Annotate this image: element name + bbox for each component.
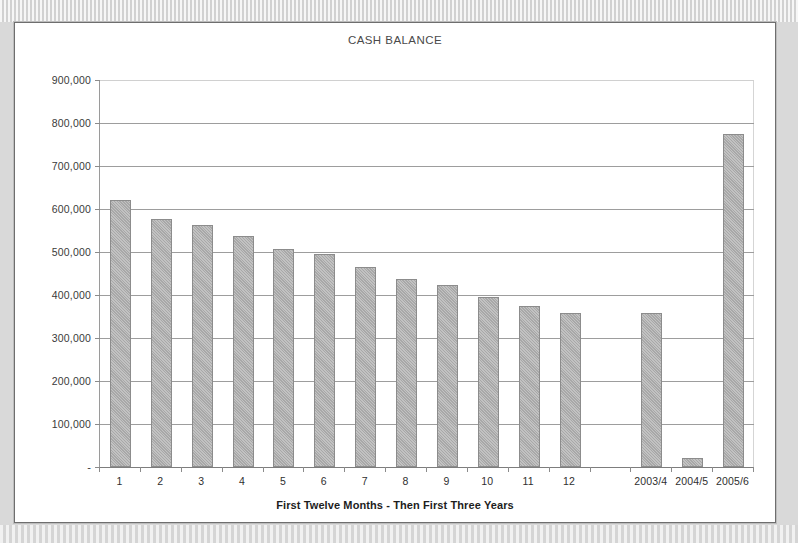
chart-title: CASH BALANCE [15,34,775,46]
gridline [100,123,754,124]
x-axis-tick [99,467,100,472]
bar [314,254,335,467]
x-axis-tick [671,467,672,472]
x-axis-tick [426,467,427,472]
y-axis-tick [95,424,100,425]
y-axis-label: 200,000 [52,375,91,387]
scan-artifact-top [0,0,798,22]
bar [478,297,499,467]
chart-card: CASH BALANCE 900,000800,000700,000600,00… [14,22,776,523]
x-axis-label: 9 [443,475,449,487]
x-axis-label: 1 [116,475,122,487]
y-axis-label: 800,000 [52,117,91,129]
x-axis-label: 4 [239,475,245,487]
x-axis-label: 7 [362,475,368,487]
x-axis-label: 5 [280,475,286,487]
x-axis-tick [303,467,304,472]
bar [519,306,540,467]
bar [192,225,213,467]
x-axis-label: 8 [403,475,409,487]
x-axis-label: 2 [157,475,163,487]
x-axis-tick [222,467,223,472]
x-axis-tick [140,467,141,472]
bar [560,313,581,467]
x-axis-tick [263,467,264,472]
bar [151,219,172,467]
x-axis-tick [181,467,182,472]
y-axis-label: - [87,461,91,473]
x-axis-tick [508,467,509,472]
bar [273,249,294,467]
x-axis-label: 11 [523,475,534,487]
y-axis-label: 700,000 [52,160,91,172]
y-axis-tick [95,295,100,296]
bar [682,458,703,467]
y-axis-label: 300,000 [52,332,91,344]
y-axis-label: 600,000 [52,203,91,215]
x-axis-label: 2005/6 [716,475,749,487]
y-axis-tick [95,252,100,253]
bar [437,285,458,467]
y-axis-tick [95,80,100,81]
x-axis-label: 12 [563,475,575,487]
y-axis-label: 400,000 [52,289,91,301]
bar [396,279,417,467]
x-axis-tick [630,467,631,472]
y-axis-label: 100,000 [52,418,91,430]
x-axis-tick [753,467,754,472]
x-axis-label: 10 [481,475,493,487]
x-axis-tick [467,467,468,472]
plot-area: 900,000800,000700,000600,000500,000400,0… [99,80,754,467]
y-axis-tick [95,209,100,210]
scan-artifact-bottom [0,525,798,543]
x-axis-tick [344,467,345,472]
x-axis-label: 2004/5 [675,475,708,487]
x-axis-label: 6 [321,475,327,487]
x-axis-tick [385,467,386,472]
y-axis-label: 900,000 [52,74,91,86]
x-axis-title: First Twelve Months - Then First Three Y… [15,499,775,511]
gridline [100,209,754,210]
bar [233,236,254,467]
x-axis-label: 3 [198,475,204,487]
gridline [100,166,754,167]
y-axis-label: 500,000 [52,246,91,258]
y-axis-tick [95,381,100,382]
bar [110,200,131,467]
y-axis-tick [95,123,100,124]
gridline [100,80,754,81]
bar [641,313,662,467]
y-axis-tick [95,166,100,167]
x-axis-tick [590,467,591,472]
bar [355,267,376,467]
bar [723,134,744,467]
x-axis-label: 2003/4 [634,475,667,487]
x-axis-tick [712,467,713,472]
x-axis-tick [549,467,550,472]
y-axis-tick [95,338,100,339]
